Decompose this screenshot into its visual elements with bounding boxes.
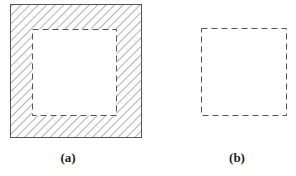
figure: (a) (b) [0, 0, 296, 176]
dashed-square [202, 29, 287, 116]
caption-b: (b) [229, 150, 245, 166]
panel-b [202, 29, 287, 116]
caption-a: (a) [60, 150, 75, 166]
inner-dashed-square [33, 30, 117, 116]
panel-a [10, 4, 142, 138]
figure-canvas [0, 0, 296, 176]
